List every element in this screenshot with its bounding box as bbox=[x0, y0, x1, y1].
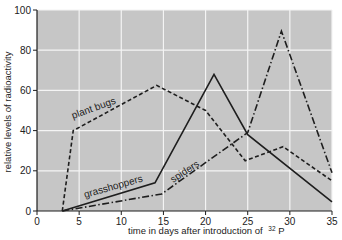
x-axis-label-text: time in days after introduction of bbox=[128, 225, 263, 236]
y-tick-label: 0 bbox=[25, 206, 31, 217]
y-tick-label: 20 bbox=[20, 165, 32, 176]
y-axis-label: relative levels of radioactivity bbox=[2, 51, 13, 172]
x-tick-label: 10 bbox=[116, 216, 128, 227]
x-tick-label: 30 bbox=[284, 216, 296, 227]
x-tick-label: 0 bbox=[34, 216, 40, 227]
y-tick-label: 80 bbox=[20, 45, 32, 56]
y-tick-label: 60 bbox=[20, 85, 32, 96]
x-axis-label-isotope-mass: 32 bbox=[268, 225, 276, 232]
x-tick-label: 5 bbox=[76, 216, 82, 227]
y-tick-label: 100 bbox=[14, 5, 31, 16]
x-axis-label-isotope-symbol: P bbox=[278, 225, 284, 236]
y-tick-label: 40 bbox=[20, 125, 32, 136]
chart: 020406080100 05101520253035 relative lev… bbox=[0, 0, 342, 240]
x-tick-label: 35 bbox=[326, 216, 338, 227]
y-ticks: 020406080100 bbox=[14, 5, 37, 217]
x-axis-label: time in days after introduction of 32 P bbox=[128, 222, 285, 236]
